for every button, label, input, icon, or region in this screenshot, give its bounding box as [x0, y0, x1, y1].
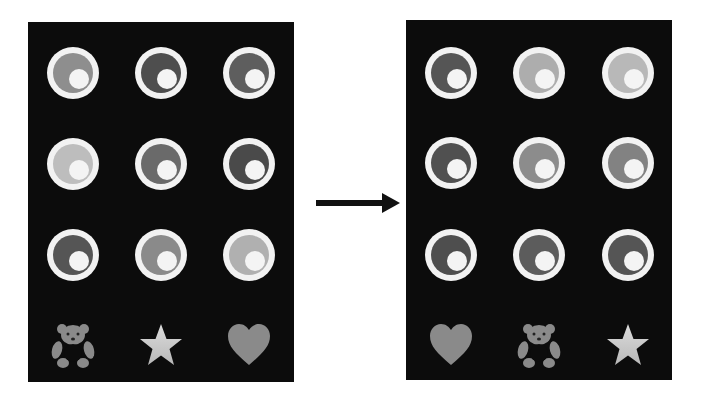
- left-ring-r2-c3: [223, 138, 275, 190]
- ring-core: [157, 69, 177, 89]
- left-heart-icon: [225, 321, 273, 369]
- right-ring-r1-c1: [425, 47, 477, 99]
- ring-band: [608, 235, 648, 275]
- ring-core: [624, 69, 644, 89]
- ring-band: [229, 53, 269, 93]
- ring-band: [608, 143, 648, 183]
- ring-band: [141, 144, 181, 184]
- ring-band: [431, 143, 471, 183]
- ring-band: [519, 143, 559, 183]
- ring-band: [141, 53, 181, 93]
- ring-core: [535, 251, 555, 271]
- ring-band: [519, 235, 559, 275]
- left-ring-r3-c1: [47, 229, 99, 281]
- right-ring-r1-c3: [602, 47, 654, 99]
- left-star-icon: [137, 321, 185, 369]
- ring-core: [245, 160, 265, 180]
- ring-core: [447, 251, 467, 271]
- ring-band: [608, 53, 648, 93]
- left-teddy-bear-icon: [49, 321, 97, 369]
- left-ring-r2-c2: [135, 138, 187, 190]
- right-ring-r1-c2: [513, 47, 565, 99]
- ring-band: [431, 235, 471, 275]
- right-ring-r3-c3: [602, 229, 654, 281]
- right-ring-r3-c1: [425, 229, 477, 281]
- ring-core: [157, 160, 177, 180]
- left-ring-r1-c1: [47, 47, 99, 99]
- ring-core: [69, 251, 89, 271]
- right-heart-icon: [427, 321, 475, 369]
- ring-core: [624, 251, 644, 271]
- ring-band: [229, 235, 269, 275]
- right-arrow-icon: [314, 192, 402, 214]
- left-ring-r1-c3: [223, 47, 275, 99]
- ring-band: [53, 53, 93, 93]
- ring-band: [53, 144, 93, 184]
- ring-core: [69, 160, 89, 180]
- ring-core: [157, 251, 177, 271]
- left-ring-r3-c3: [223, 229, 275, 281]
- right-star-icon: [604, 321, 652, 369]
- ring-core: [535, 159, 555, 179]
- ring-band: [519, 53, 559, 93]
- ring-band: [229, 144, 269, 184]
- ring-core: [447, 69, 467, 89]
- ring-band: [431, 53, 471, 93]
- ring-band: [141, 235, 181, 275]
- left-ring-r2-c1: [47, 138, 99, 190]
- ring-core: [69, 69, 89, 89]
- right-ring-r2-c2: [513, 137, 565, 189]
- right-teddy-bear-icon: [515, 321, 563, 369]
- ring-core: [447, 159, 467, 179]
- right-ring-r3-c2: [513, 229, 565, 281]
- ring-core: [245, 69, 265, 89]
- ring-band: [53, 235, 93, 275]
- ring-core: [624, 159, 644, 179]
- left-ring-r3-c2: [135, 229, 187, 281]
- left-ring-r1-c2: [135, 47, 187, 99]
- ring-core: [535, 69, 555, 89]
- right-ring-r2-c1: [425, 137, 477, 189]
- right-ring-r2-c3: [602, 137, 654, 189]
- ring-core: [245, 251, 265, 271]
